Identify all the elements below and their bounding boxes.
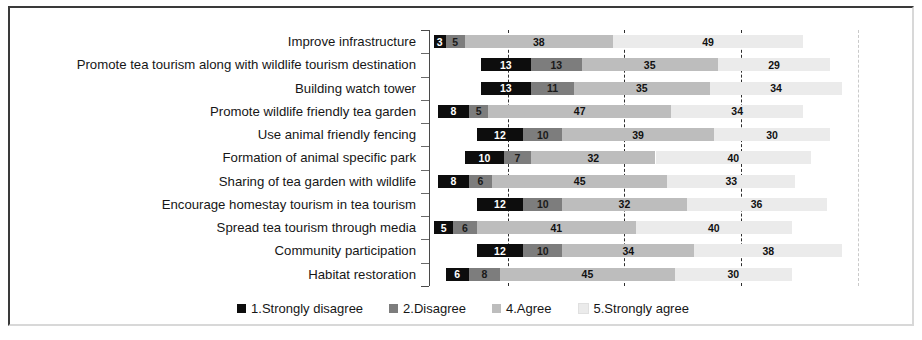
bar-segment: 7 (504, 151, 531, 164)
bar-row: 1073240 (430, 146, 916, 169)
bar-segment: 47 (488, 105, 671, 118)
chart-frame: Improve infrastructurePromote tea touris… (8, 6, 914, 326)
bar-segment: 5 (446, 35, 465, 48)
y-axis-tick (421, 263, 429, 264)
bar-segment: 5 (469, 105, 488, 118)
bar-row: 684530 (430, 263, 916, 286)
bar-value-label: 30 (675, 269, 792, 280)
bar-segment: 35 (582, 58, 718, 71)
bar-value-label: 8 (438, 176, 469, 187)
bar-segment: 34 (671, 105, 803, 118)
bar-segment: 8 (438, 175, 469, 188)
bar-segment: 34 (562, 244, 694, 257)
y-axis-tick (421, 123, 429, 124)
y-axis-tick (421, 53, 429, 54)
bar-value-label: 6 (469, 176, 492, 187)
bar-segment: 8 (469, 268, 500, 281)
bar-segment: 13 (481, 58, 532, 71)
bar-segment: 32 (562, 198, 686, 211)
bar-value-label: 40 (636, 222, 792, 233)
bar-value-label: 5 (469, 106, 488, 117)
bar-value-label: 36 (687, 199, 827, 210)
bar-segment: 33 (667, 175, 795, 188)
bar-value-label: 12 (477, 129, 524, 140)
y-axis-tick (421, 193, 429, 194)
category-label: Community participation (275, 239, 416, 262)
bar-value-label: 6 (446, 269, 469, 280)
y-axis-tick (421, 146, 429, 147)
legend-swatch-icon (237, 304, 246, 313)
bar-segment: 30 (714, 128, 831, 141)
bar-segment: 10 (523, 198, 562, 211)
category-label: Building watch tower (295, 77, 416, 100)
legend-swatch-icon (492, 304, 501, 313)
bar-value-label: 7 (504, 153, 531, 164)
bar-row: 12103930 (430, 123, 916, 146)
bar-row: 854734 (430, 100, 916, 123)
bar-segment: 40 (636, 221, 792, 234)
bar-row: 13113534 (430, 77, 916, 100)
chart-legend: 1.Strongly disagree2.Disagree4.Agree5.St… (10, 296, 916, 320)
bar-value-label: 35 (582, 60, 718, 71)
bar-value-label: 33 (667, 176, 795, 187)
bar-value-label: 10 (523, 129, 562, 140)
bar-segment: 6 (446, 268, 469, 281)
bar-value-label: 13 (481, 83, 532, 94)
legend-item[interactable]: 5.Strongly agree (578, 301, 689, 316)
bar-value-label: 13 (481, 60, 532, 71)
bar-value-label: 5 (434, 222, 453, 233)
bar-value-label: 49 (613, 36, 804, 47)
bar-value-label: 40 (656, 153, 812, 164)
legend-label: 2.Disagree (403, 301, 466, 316)
y-axis-tick (421, 286, 429, 287)
bar-row: 12103438 (430, 239, 916, 262)
legend-item[interactable]: 1.Strongly disagree (237, 301, 363, 316)
bar-value-label: 13 (531, 60, 582, 71)
bar-value-label: 32 (531, 153, 655, 164)
category-label: Sharing of tea garden with wildlife (219, 170, 416, 193)
bar-segment: 41 (477, 221, 636, 234)
bar-segment: 32 (531, 151, 655, 164)
bar-segment: 12 (477, 198, 524, 211)
stacked-bar-chart: Improve infrastructurePromote tea touris… (10, 8, 916, 328)
bar-value-label: 47 (488, 106, 671, 117)
legend-swatch-icon (389, 304, 398, 313)
bar-row: 12103236 (430, 193, 916, 216)
y-axis-tick (421, 100, 429, 101)
bar-segment: 49 (613, 35, 804, 48)
bar-value-label: 30 (714, 129, 831, 140)
bar-value-label: 10 (523, 199, 562, 210)
y-axis-tick (421, 239, 429, 240)
legend-item[interactable]: 4.Agree (492, 301, 552, 316)
bar-segment: 29 (718, 58, 831, 71)
category-label: Formation of animal specific park (223, 146, 417, 169)
bar-row: 564140 (430, 216, 916, 239)
bar-segment: 45 (492, 175, 667, 188)
bar-segment: 38 (465, 35, 613, 48)
bar-value-label: 34 (710, 83, 842, 94)
category-axis-labels: Improve infrastructurePromote tea touris… (10, 30, 422, 286)
category-label: Spread tea tourism through media (217, 216, 416, 239)
bar-segment: 39 (562, 128, 714, 141)
bar-value-label: 38 (465, 36, 613, 47)
category-label: Use animal friendly fencing (258, 123, 416, 146)
bar-value-label: 3 (434, 36, 446, 47)
legend-label: 5.Strongly agree (594, 301, 689, 316)
legend-item[interactable]: 2.Disagree (389, 301, 466, 316)
bar-value-label: 8 (438, 106, 469, 117)
bar-segment: 10 (523, 244, 562, 257)
bar-segment: 12 (477, 128, 524, 141)
bar-value-label: 6 (453, 222, 476, 233)
bar-segment: 36 (687, 198, 827, 211)
bar-value-label: 10 (465, 153, 504, 164)
legend-label: 4.Agree (506, 301, 552, 316)
bar-segment: 12 (477, 244, 524, 257)
bar-segment: 6 (453, 221, 476, 234)
bar-segment: 10 (523, 128, 562, 141)
bar-row: 353849 (430, 30, 916, 53)
category-label: Improve infrastructure (288, 30, 416, 53)
category-label: Promote wildlife friendly tea garden (210, 100, 416, 123)
bar-value-label: 10 (523, 246, 562, 257)
bar-value-label: 32 (562, 199, 686, 210)
bar-segment: 6 (469, 175, 492, 188)
